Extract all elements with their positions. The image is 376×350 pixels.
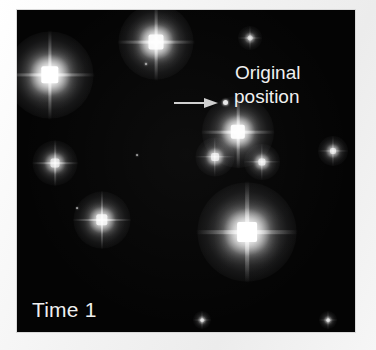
star-glow bbox=[196, 138, 235, 177]
star-glow bbox=[198, 183, 297, 282]
star-spike-vertical bbox=[214, 137, 215, 177]
star-core bbox=[200, 318, 204, 322]
star-glow bbox=[143, 61, 149, 67]
star-spike-horizontal bbox=[196, 230, 298, 234]
panel-label-time: Time 1 bbox=[32, 298, 97, 322]
star-spike-vertical bbox=[155, 10, 158, 81]
star-spike-vertical bbox=[48, 30, 51, 120]
star-spike-vertical bbox=[202, 311, 203, 330]
star-spike-horizontal bbox=[32, 162, 79, 164]
star-core bbox=[326, 318, 330, 322]
star-glow bbox=[135, 153, 140, 158]
right-arrow-icon bbox=[174, 98, 220, 108]
annotation-line-2: position bbox=[234, 86, 300, 107]
star-core bbox=[145, 63, 147, 65]
star-core bbox=[76, 207, 78, 209]
star-spike-horizontal bbox=[201, 131, 275, 134]
star-spike-vertical bbox=[54, 140, 56, 187]
star-glow bbox=[319, 311, 337, 329]
star-core bbox=[149, 35, 164, 50]
star-glow bbox=[119, 10, 194, 80]
star-core bbox=[136, 154, 138, 156]
star-spike-horizontal bbox=[193, 320, 212, 321]
star-spike-horizontal bbox=[73, 219, 132, 221]
star-core bbox=[41, 66, 58, 83]
star-spike-vertical bbox=[328, 311, 329, 330]
star-spike-vertical bbox=[101, 191, 103, 250]
origin-dot-marker bbox=[223, 100, 228, 105]
star-spike-vertical bbox=[245, 181, 249, 283]
arrow-head bbox=[204, 98, 218, 108]
star-core bbox=[330, 148, 336, 154]
star-spike-vertical bbox=[332, 136, 333, 167]
star-glow bbox=[75, 206, 80, 211]
star-glow bbox=[318, 136, 348, 166]
star-glow bbox=[17, 32, 94, 119]
figure-page: Original position Time 1 bbox=[0, 0, 376, 350]
star-core bbox=[258, 158, 265, 165]
arrow-shaft bbox=[174, 102, 208, 104]
star-spike-horizontal bbox=[319, 320, 338, 321]
star-spike-vertical bbox=[250, 26, 251, 51]
star-spike-horizontal bbox=[243, 161, 280, 162]
star-spike-vertical bbox=[261, 143, 262, 180]
star-glow bbox=[244, 144, 280, 180]
star-core bbox=[237, 222, 257, 242]
star-glow bbox=[193, 311, 211, 329]
star-core bbox=[211, 153, 219, 161]
star-spike-horizontal bbox=[117, 41, 195, 44]
star-glow bbox=[238, 26, 262, 50]
star-core bbox=[51, 159, 60, 168]
star-core bbox=[248, 36, 253, 41]
annotation-line-1: Original bbox=[235, 62, 300, 83]
star-spike-horizontal bbox=[238, 38, 263, 39]
star-field-image: Original position Time 1 bbox=[17, 10, 355, 332]
star-spike-horizontal bbox=[195, 156, 235, 157]
star-spike-horizontal bbox=[318, 150, 349, 151]
star-core bbox=[96, 214, 107, 225]
star-spike-horizontal bbox=[17, 73, 95, 76]
star-glow bbox=[74, 192, 131, 249]
star-glow bbox=[33, 141, 78, 186]
star-core bbox=[231, 125, 245, 139]
